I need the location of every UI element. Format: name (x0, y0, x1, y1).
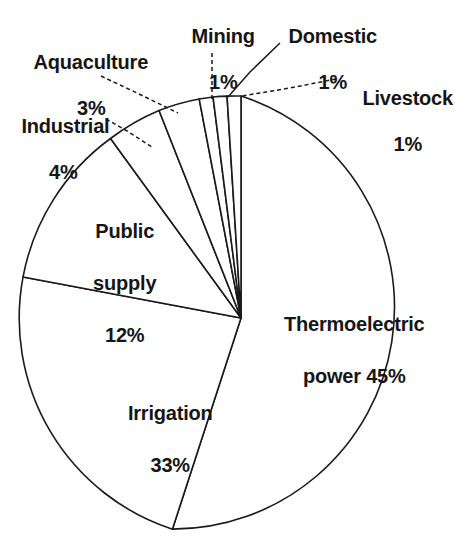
leader-line-domestic (228, 43, 280, 97)
pie-slices (19, 96, 394, 529)
leader-line-livestock (242, 79, 336, 96)
pie-chart-svg (0, 0, 455, 544)
leader-line-aquaculture (101, 76, 178, 113)
pie-chart-figure: Aquaculture 3% Industrial 4% Mining 1% D… (0, 0, 455, 544)
